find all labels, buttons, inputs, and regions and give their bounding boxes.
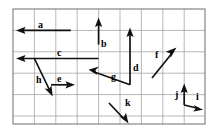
vector-a: a — [16, 19, 71, 34]
vector-f-label: f — [155, 49, 159, 60]
vector-b: b — [95, 18, 107, 50]
vector-b-label: b — [101, 38, 107, 49]
vector-i: i — [184, 91, 203, 112]
vector-a-label: a — [38, 19, 43, 30]
vector-j-label: j — [174, 89, 178, 100]
vector-d: d — [126, 28, 139, 85]
vector-e: e — [51, 73, 75, 88]
vector-grid-figure: a b c d e f — [0, 0, 218, 132]
vector-i-label: i — [196, 91, 199, 102]
vector-g: g — [89, 67, 131, 85]
vector-c-label: c — [57, 47, 62, 58]
vector-d-label: d — [133, 62, 139, 73]
vector-c: c — [16, 47, 99, 62]
vector-g-label: g — [111, 71, 116, 82]
vector-k-label: k — [125, 97, 131, 108]
vector-diagram-canvas: a b c d e f — [0, 0, 218, 132]
vector-e-label: e — [57, 73, 62, 84]
vector-h: h — [34, 59, 52, 97]
vector-h-label: h — [36, 74, 42, 85]
